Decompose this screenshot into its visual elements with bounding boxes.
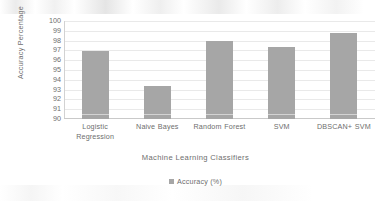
y-tick-label: 91 [53,106,61,113]
chart-legend: Accuracy (%) [0,177,391,186]
y-tick-label: 94 [53,76,61,83]
x-tick-label: Random Forest [188,122,250,141]
y-tick-label: 100 [49,17,61,24]
plot-area [64,21,375,119]
x-tick-label: DBSCAN+ SVM [313,122,375,141]
bar-chart-figure: Accuracy Percentage 100 99 98 97 96 95 9… [0,0,391,201]
x-tick-label: SVM [251,122,313,141]
y-tick-label: 99 [53,27,61,34]
y-tick-label: 92 [53,96,61,103]
bar-slot [313,21,375,119]
y-axis-title: Accuracy Percentage [16,0,25,91]
bar[interactable] [144,86,171,119]
bar[interactable] [206,41,233,119]
bar-slot [251,21,313,119]
y-tick-label: 97 [53,47,61,54]
bar[interactable] [330,33,357,119]
y-tick-label: 95 [53,66,61,73]
legend-square-marker [169,179,174,184]
y-tick-label: 98 [53,37,61,44]
bar-slot [188,21,250,119]
y-tick-label: 96 [53,57,61,64]
bar-series-accuracy [64,21,375,119]
bar[interactable] [82,51,109,119]
y-tick-label: 93 [53,86,61,93]
bar-slot [126,21,188,119]
x-tick-label: Logistic Regression [64,122,126,141]
bar[interactable] [268,47,295,119]
bar-slot [64,21,126,119]
legend-label: Accuracy (%) [177,177,222,186]
x-axis-title: Machine Learning Classifiers [0,153,391,162]
x-axis-tick-labels: Logistic Regression Naive Bayes Random F… [64,122,375,141]
y-tick-label: 90 [53,115,61,122]
x-tick-label: Naive Bayes [126,122,188,141]
y-axis-tick-labels: 100 99 98 97 96 95 94 93 92 91 90 [40,21,61,119]
